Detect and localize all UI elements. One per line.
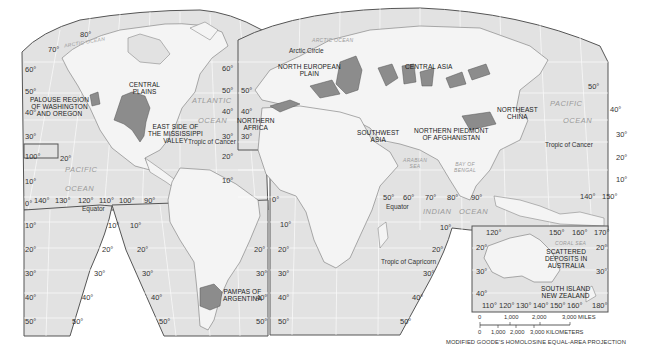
- label-tropic-capricorn: Tropic of Capricorn: [381, 259, 436, 266]
- lat-label: 10°: [280, 221, 291, 229]
- lon-label: 150°: [602, 193, 618, 201]
- lon-label: 50°: [383, 194, 394, 202]
- lat-label: 40°: [25, 294, 36, 302]
- lat-label: 20°: [432, 246, 443, 254]
- lat-label: 100°: [25, 153, 41, 161]
- label-new-zealand: SOUTH ISLAND NEW ZEALAND: [541, 286, 590, 300]
- label-atlantic-ocean: OCEAN: [198, 117, 227, 125]
- lat-label: 50°: [400, 318, 411, 326]
- lat-label: 70°: [48, 46, 59, 54]
- lat-label: 50°: [25, 318, 36, 326]
- label-coral-sea: CORAL SEA: [555, 241, 586, 247]
- label-palouse: PALOUSE REGION OF WASHINGTON AND OREGON: [30, 97, 89, 117]
- lon-label: 90°: [471, 194, 482, 202]
- lon-label: 140°: [34, 197, 50, 205]
- scale-km-1000: 1,000: [491, 330, 506, 336]
- lat-label: 20°: [102, 246, 113, 254]
- label-tropic-cancer-right: Tropic of Cancer: [545, 142, 593, 149]
- lat-label: 10°: [440, 224, 451, 232]
- label-bay-of-bengal: BAY OF BENGAL: [454, 162, 476, 173]
- lat-label: 50°: [588, 83, 599, 91]
- label-arctic-ocean-right: ARCTIC OCEAN: [312, 38, 353, 44]
- lat-label: 20°: [254, 246, 265, 254]
- lat-label: 30°: [278, 270, 289, 278]
- lat-label: 40°: [241, 108, 252, 116]
- lat-label: 50°: [241, 87, 252, 95]
- lat-label: 30°: [142, 270, 153, 278]
- lat-label: 40°: [610, 106, 621, 114]
- lat-label: 10°: [25, 222, 36, 230]
- label-arabian-sea: ARABIAN SEA: [403, 158, 427, 169]
- label-pacific-left: PACIFIC: [65, 166, 98, 174]
- inset-lon-label: 150°: [549, 229, 565, 237]
- lon-label: 60°: [403, 194, 414, 202]
- lat-label: 20°: [222, 153, 233, 161]
- lat-label: 30°: [256, 270, 267, 278]
- lat-label: 30°: [25, 133, 36, 141]
- lat-label: 50°: [159, 318, 170, 326]
- label-atlantic: ATLANTIC: [192, 97, 232, 105]
- lat-label: 80°: [80, 31, 91, 39]
- lat-label: 10°: [108, 222, 119, 230]
- lat-label: 40°: [25, 109, 36, 117]
- lat-label: 50°: [222, 87, 233, 95]
- label-northern-africa: NORTHERN AFRICA: [237, 118, 275, 132]
- scale-miles-0: 0: [478, 315, 481, 321]
- label-northeast-china: NORTHEAST CHINA: [497, 107, 538, 121]
- label-equator-left: Equator: [82, 206, 105, 213]
- lat-label: 50°: [25, 88, 36, 96]
- inset-lat-label: 30°: [596, 268, 607, 276]
- lat-label: 40°: [151, 294, 162, 302]
- label-arctic-circle: Arctic Circle: [289, 48, 324, 55]
- lat-label: 30°: [241, 133, 252, 141]
- label-north-european-plain: NORTH EUROPEAN PLAIN: [278, 64, 341, 78]
- lat-label: 30°: [94, 270, 105, 278]
- lat-label: 20°: [25, 246, 36, 254]
- lat-label: 40°: [82, 294, 93, 302]
- lat-label: 30°: [25, 270, 36, 278]
- lon-label: 100°: [119, 197, 135, 205]
- lat-label: 0°: [272, 196, 279, 204]
- inset-lon-label: 180°: [592, 302, 608, 310]
- inset-lat-label: 40°: [476, 290, 487, 298]
- inset-lon-label: 120°: [499, 302, 515, 310]
- inset-lon-label: 160°: [572, 229, 588, 237]
- lat-label: 10°: [616, 176, 627, 184]
- lat-label: 30°: [222, 133, 233, 141]
- label-central-plains: CENTRAL PLAINS: [129, 82, 160, 96]
- lat-label: 40°: [256, 294, 267, 302]
- lon-label: 140°: [580, 193, 596, 201]
- label-pacific-left-ocean: OCEAN: [65, 185, 94, 193]
- scale-km-0: 0: [478, 330, 481, 336]
- lat-label: 60°: [25, 66, 36, 74]
- lon-label: 70°: [425, 194, 436, 202]
- lat-label: 20°: [278, 246, 289, 254]
- label-indian: INDIAN: [423, 208, 451, 216]
- inset-lon-label: 110°: [482, 302, 497, 310]
- inset-lon-label: 160°: [567, 302, 583, 310]
- inset-lat-label: 20°: [476, 244, 487, 252]
- scale-miles-3000: 3,000 MILES: [562, 315, 596, 321]
- lat-label: 50°: [256, 318, 267, 326]
- label-indian-ocean: OCEAN: [459, 208, 488, 216]
- lon-label: 90°: [144, 197, 155, 205]
- inset-lon-label: 170°: [594, 229, 610, 237]
- label-afghanistan: NORTHERN PIEDMONT OF AFGHANISTAN: [414, 128, 489, 142]
- lon-label: 110°: [99, 197, 114, 205]
- inset-lon-label: 140°: [533, 302, 549, 310]
- lon-label: 120°: [78, 197, 94, 205]
- lat-label: 40°: [412, 294, 423, 302]
- lat-label: 30°: [423, 270, 434, 278]
- label-central-asia: CENTRAL ASIA: [405, 64, 453, 71]
- lat-label: 20°: [137, 246, 148, 254]
- lat-label: 0°: [25, 200, 32, 208]
- lat-label: 40°: [278, 294, 289, 302]
- lat-label: 10°: [130, 222, 141, 230]
- lat-label: 40°: [222, 108, 233, 116]
- lat-label: 20°: [60, 155, 71, 163]
- label-pacific-right: PACIFIC: [550, 100, 583, 108]
- inset-lon-label: 150°: [550, 302, 566, 310]
- projection-caption: MODIFIED GOODE'S HOMOLOSINE EQUAL-AREA P…: [446, 340, 626, 346]
- lat-label: 20°: [616, 154, 627, 162]
- lat-label: 50°: [72, 318, 83, 326]
